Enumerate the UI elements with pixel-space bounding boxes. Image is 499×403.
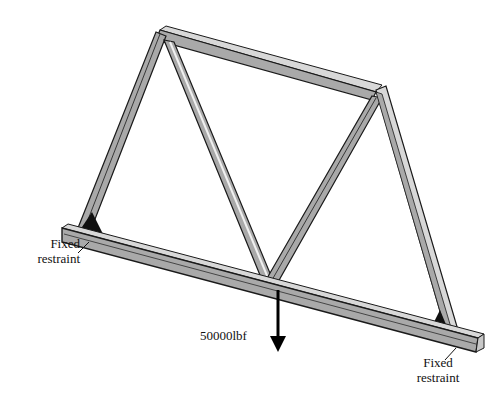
left-web (164, 40, 272, 280)
truss-drawing (0, 0, 499, 403)
load-label: 50000lbf (200, 328, 247, 343)
left-rafter (78, 32, 166, 232)
right-web (266, 96, 382, 282)
right-support-label: Fixed restraint (408, 355, 468, 385)
left-support-label: Fixed restraint (22, 236, 80, 266)
truss-diagram: Fixed restraint Fixed restraint 50000lbf (0, 0, 499, 403)
right-rafter (376, 86, 458, 332)
